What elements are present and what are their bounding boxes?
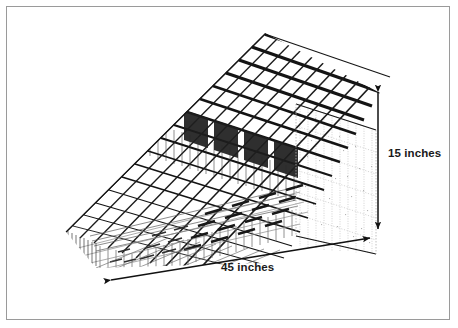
lattice-structure-drawing xyxy=(0,0,458,328)
dimension-label-length: 45 inches xyxy=(221,261,274,273)
figure-page: 15 inches 45 inches xyxy=(0,0,458,328)
lattice-structure xyxy=(66,22,390,280)
lower-face-rails xyxy=(78,192,308,272)
dimension-label-height: 15 inches xyxy=(388,147,441,159)
